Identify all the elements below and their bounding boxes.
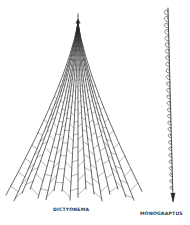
monograptus-label: MONOGRAPTUS	[140, 211, 183, 216]
dictyonema-drawing	[6, 14, 142, 201]
dictyonema-label: DICTYONEMA	[53, 207, 89, 212]
monograptus-drawing	[164, 8, 175, 202]
illustration	[0, 0, 190, 225]
